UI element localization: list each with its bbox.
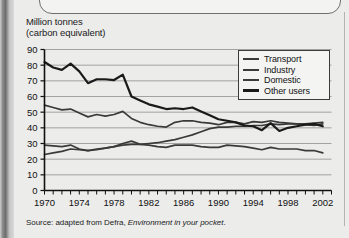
y-tick-label-50: 50 xyxy=(27,107,38,118)
legend-item-domestic: Domestic xyxy=(243,75,325,86)
legend-label-domestic: Domestic xyxy=(264,75,301,85)
source-caption: Source: adapted from Defra, Environment … xyxy=(26,218,226,227)
y-tick-label-0: 0 xyxy=(32,185,37,196)
legend-item-transport: Transport xyxy=(243,54,325,65)
legend-label-other-users: Other users xyxy=(264,86,310,96)
source-suffix: . xyxy=(223,218,225,227)
x-tick-label-1990: 1990 xyxy=(208,197,229,208)
x-tick-label-1994: 1994 xyxy=(243,197,264,208)
line-chart-svg: 0102030405060708090 19701974197819821986… xyxy=(0,0,349,238)
x-tick-label-2002: 2002 xyxy=(312,197,333,208)
chart-legend: Transport Industry Domestic Other users xyxy=(238,50,330,100)
y-tick-label-90: 90 xyxy=(27,44,38,55)
y-tick-label-80: 80 xyxy=(27,60,38,71)
legend-swatch-transport xyxy=(243,58,259,60)
x-tick-label-1974: 1974 xyxy=(69,197,90,208)
x-tick-label-1986: 1986 xyxy=(173,197,194,208)
y-tick-label-30: 30 xyxy=(27,138,38,149)
plot-area: 0102030405060708090 19701974197819821986… xyxy=(0,0,349,238)
y-tick-label-70: 70 xyxy=(27,75,38,86)
source-prefix: Source: adapted from Defra, xyxy=(26,218,126,227)
y-tick-label-40: 40 xyxy=(27,122,38,133)
y-tick-label-60: 60 xyxy=(27,91,38,102)
legend-swatch-other-users xyxy=(243,89,259,92)
y-axis-tick-labels: 0102030405060708090 xyxy=(27,44,38,196)
x-tick-label-1978: 1978 xyxy=(104,197,125,208)
legend-item-industry: Industry xyxy=(243,65,325,76)
source-publication-title: Environment in your pocket xyxy=(128,218,224,227)
x-tick-label-1998: 1998 xyxy=(277,197,298,208)
figure-page: Million tonnes (carbon equivalent) 01020… xyxy=(0,0,349,238)
legend-swatch-domestic xyxy=(243,79,259,81)
legend-item-other-users: Other users xyxy=(243,86,325,97)
legend-label-transport: Transport xyxy=(264,54,301,64)
x-tick-label-1982: 1982 xyxy=(138,197,159,208)
legend-swatch-industry xyxy=(243,69,259,71)
x-axis-tick-labels: 197019741978198219861990199419982002 xyxy=(34,197,333,208)
y-tick-label-20: 20 xyxy=(27,154,38,165)
legend-label-industry: Industry xyxy=(264,65,295,75)
y-tick-label-10: 10 xyxy=(27,169,38,180)
x-tick-label-1970: 1970 xyxy=(34,197,55,208)
